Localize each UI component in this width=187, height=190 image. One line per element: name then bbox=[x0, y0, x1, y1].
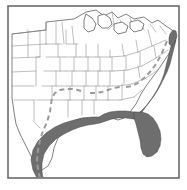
range-map-figure bbox=[0, 0, 187, 190]
range-map-svg bbox=[0, 0, 187, 190]
